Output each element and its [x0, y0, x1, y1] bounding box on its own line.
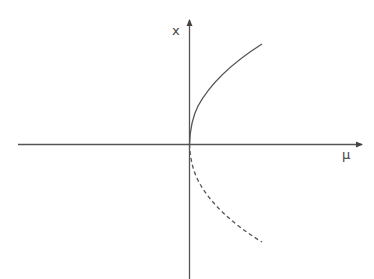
- vertical-axis-label: x: [172, 24, 180, 37]
- horizontal-axis-label: μ: [342, 148, 350, 161]
- stable-branch-curve: [190, 44, 263, 144]
- unstable-branch-curve: [190, 144, 263, 242]
- bifurcation-plot: [0, 0, 374, 279]
